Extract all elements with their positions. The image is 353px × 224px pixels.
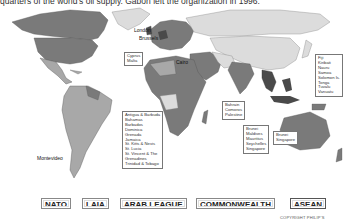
world-map <box>0 0 353 196</box>
callout-pacific: Fiji Kiribati Nauru Samoa Solomon Is. To… <box>315 54 343 97</box>
callout-item: Vanuatu <box>318 90 340 95</box>
label-montevideo: Montevideo <box>37 156 63 161</box>
india <box>228 62 254 94</box>
label-london: London <box>134 28 151 33</box>
callout-indian-ocean: Brunei Maldives Mauritius Seychelles Sin… <box>243 125 269 154</box>
callout-cyprus-malta: Cyprus Malta <box>124 52 143 66</box>
russia <box>186 10 330 36</box>
southeast-asia <box>262 70 276 92</box>
callout-item: Malta <box>127 59 140 64</box>
callout-brunei-singapore: Brunei Singapore <box>273 131 298 145</box>
legend-laia: LAIA <box>82 198 109 209</box>
canada <box>12 10 108 40</box>
legend-asean: ASEAN <box>290 198 326 209</box>
callout-item: Singapore <box>276 138 295 143</box>
label-brussels: Brussels <box>139 36 158 41</box>
legend-arab-league: ARAB LEAGUE <box>120 198 187 209</box>
legend-nato: NATO <box>41 198 71 209</box>
south-america <box>62 86 112 178</box>
callout-item: Singapore <box>246 147 266 152</box>
callout-bahrain-comoros-palestine: Bahrain Comoros Palestine <box>222 101 245 120</box>
callout-item: Trinidad & Tobago <box>125 162 160 167</box>
label-cairo: Cairo <box>176 60 188 65</box>
callout-caribbean: Antigua & Barbuda Bahamas Barbados Domin… <box>122 111 163 169</box>
callout-item: Palestine <box>225 113 242 118</box>
legend-commonwealth: COMMONWEALTH <box>196 198 275 209</box>
copyright: COPYRIGHT PHILIP'S <box>280 215 325 220</box>
